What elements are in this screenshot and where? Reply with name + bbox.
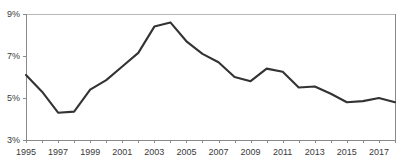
x-axis-labels-group: 1995199719992001200320052007200920112013… <box>16 147 389 157</box>
y-axis-tick-label: 7% <box>7 51 20 61</box>
x-axis-tick-label: 2003 <box>144 147 164 157</box>
chart-canvas: 3%5%7%9% 1995199719992001200320052007200… <box>0 0 405 164</box>
x-axis-tick-label: 2013 <box>305 147 325 157</box>
x-axis-tick-label: 1995 <box>16 147 36 157</box>
x-axis-tick-label: 2017 <box>369 147 389 157</box>
x-axis-tick-label: 2005 <box>176 147 196 157</box>
data-series-line <box>26 22 395 112</box>
line-chart: 3%5%7%9% 1995199719992001200320052007200… <box>0 0 405 164</box>
y-axis-ticks-group <box>23 15 26 141</box>
axis-lines-group <box>26 14 396 141</box>
x-axis-tick-label: 1999 <box>80 147 100 157</box>
x-axis-tick-label: 2001 <box>112 147 132 157</box>
y-axis-tick-label: 3% <box>7 135 20 145</box>
x-axis-tick-label: 2009 <box>241 147 261 157</box>
y-axis-tick-label: 9% <box>7 9 20 19</box>
x-axis-tick-label: 2015 <box>337 147 357 157</box>
y-axis-labels-group: 3%5%7%9% <box>7 9 20 145</box>
x-axis-tick-label: 2007 <box>209 147 229 157</box>
x-axis-tick-label: 2011 <box>273 147 292 157</box>
y-axis-tick-label: 5% <box>7 93 20 103</box>
x-axis-tick-label: 1997 <box>48 147 68 157</box>
